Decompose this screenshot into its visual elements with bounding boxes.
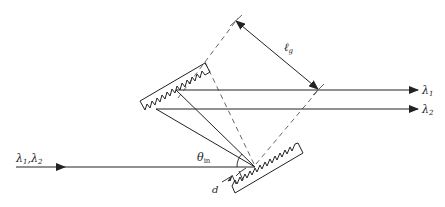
output-beam-2-label: λ2	[421, 103, 434, 117]
grating-1	[140, 63, 210, 110]
diffracted-beams	[156, 90, 255, 167]
dashed-line-upper-normal	[178, 18, 238, 98]
diffracted-beam-1	[176, 90, 255, 167]
dashed-line-upper-to-lower	[205, 62, 254, 164]
dashed-construction-lines	[178, 18, 320, 164]
incidence-angle-arc	[237, 154, 242, 167]
input-beam-arrow-icon	[56, 163, 66, 171]
separation-label: ℓg	[284, 41, 294, 55]
grating-pair-diagram: λ1,λ2 λ1 λ2 θin ℓg d	[0, 0, 445, 207]
grating-1-body	[140, 63, 210, 110]
separation-arrow	[236, 21, 318, 89]
grating-2	[232, 143, 303, 193]
output-beam-1-label: λ1	[421, 84, 433, 98]
incidence-angle-label: θin	[197, 151, 211, 165]
input-beam-label: λ1,λ2	[15, 152, 43, 166]
groove-period-label: d	[212, 184, 218, 195]
grating-2-teeth	[232, 143, 298, 186]
